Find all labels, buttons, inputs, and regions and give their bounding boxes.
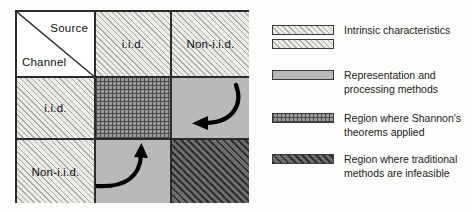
column-header-iid-label: i.i.d. bbox=[122, 38, 144, 50]
legend-swatch-group-representation bbox=[272, 69, 334, 80]
legend-swatch-light-hatch-a bbox=[272, 25, 334, 35]
channel-axis-label: Channel bbox=[22, 56, 66, 68]
cell-iid-noniid bbox=[172, 78, 249, 140]
legend-swatch-group-intrinsic bbox=[272, 24, 334, 49]
curved-arrow-left-icon bbox=[176, 80, 248, 138]
matrix-corner-header: Source Channel bbox=[17, 12, 96, 78]
row-header-iid: i.i.d. bbox=[17, 78, 96, 140]
legend-item-intrinsic-characteristics: Intrinsic characteristics bbox=[272, 24, 468, 49]
legend-swatch-light-hatch-b bbox=[272, 39, 334, 49]
cell-noniid-iid bbox=[96, 140, 172, 203]
row-header-non-iid-label: Non-i.i.d. bbox=[31, 166, 79, 178]
legend-swatch-solid-gray bbox=[272, 70, 334, 80]
column-header-non-iid: Non-i.i.d. bbox=[172, 12, 249, 78]
row-header-non-iid: Non-i.i.d. bbox=[17, 140, 96, 203]
legend: Intrinsic characteristics Representation… bbox=[272, 24, 468, 193]
cell-iid-iid bbox=[96, 78, 172, 140]
source-axis-label: Source bbox=[50, 22, 88, 34]
column-header-non-iid-label: Non-i.i.d. bbox=[186, 38, 234, 50]
legend-item-representation-methods: Representation and processing methods bbox=[272, 69, 468, 96]
legend-label-traditional-infeasible: Region where traditional methods are inf… bbox=[344, 153, 468, 180]
legend-item-shannon-theorems: Region where Shannon's theorems applied bbox=[272, 112, 468, 139]
legend-item-traditional-infeasible: Region where traditional methods are inf… bbox=[272, 153, 468, 180]
legend-label-shannon-theorems: Region where Shannon's theorems applied bbox=[344, 112, 468, 139]
legend-swatch-dark-hatch bbox=[272, 154, 334, 164]
legend-swatch-group-infeasible bbox=[272, 153, 334, 164]
column-header-iid: i.i.d. bbox=[96, 12, 172, 78]
legend-label-intrinsic-characteristics: Intrinsic characteristics bbox=[344, 24, 450, 38]
legend-swatch-cross-hatch bbox=[272, 113, 334, 123]
legend-label-representation-methods: Representation and processing methods bbox=[344, 69, 468, 96]
cell-noniid-noniid bbox=[172, 140, 249, 203]
source-channel-matrix: Source Channel i.i.d. Non-i.i.d. i.i.d. … bbox=[15, 10, 249, 203]
curved-arrow-up-icon bbox=[96, 142, 164, 200]
legend-swatch-group-shannon bbox=[272, 112, 334, 123]
row-header-iid-label: i.i.d. bbox=[44, 102, 66, 114]
